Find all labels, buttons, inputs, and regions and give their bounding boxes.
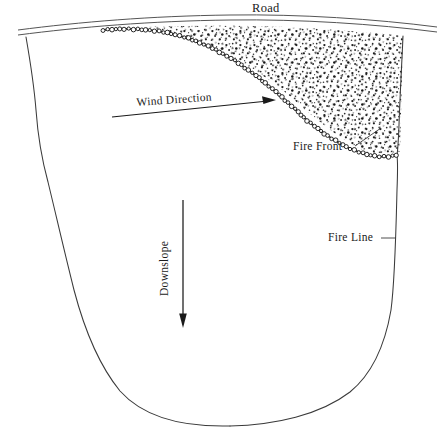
fire-front-label: Fire Front bbox=[293, 140, 342, 152]
fire-line-label: Fire Line bbox=[328, 231, 373, 243]
fire-spread-diagram: Road Wind Direction Fire Front Fire Line… bbox=[0, 0, 439, 438]
burned-area bbox=[90, 18, 420, 168]
downslope-label: Downslope bbox=[158, 241, 170, 296]
diagram-canvas bbox=[0, 0, 439, 438]
downslope-arrow bbox=[179, 200, 187, 328]
road-label: Road bbox=[252, 1, 280, 16]
